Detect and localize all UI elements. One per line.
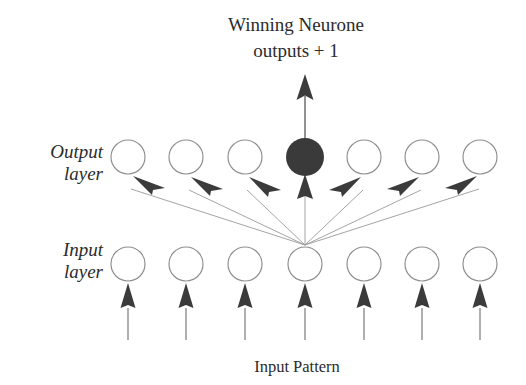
input-layer-label-line-1: Input (62, 239, 104, 260)
input-arrow-head-icon-0 (121, 283, 136, 308)
output-layer-label-line-2: layer (64, 163, 104, 184)
winner-output-arrow (297, 74, 314, 140)
output-node-3-winning-neurone[interactable] (286, 138, 324, 176)
connection-arrow-head-icon-0 (133, 176, 165, 195)
output-node-2[interactable] (228, 140, 262, 174)
input-pattern-arrows (121, 283, 488, 340)
title-line-2: outputs + 1 (253, 40, 339, 61)
output-node-5[interactable] (405, 140, 439, 174)
input-node-6[interactable] (463, 247, 497, 281)
input-layer-nodes (111, 247, 497, 281)
input-node-3[interactable] (288, 247, 322, 281)
diagram-canvas: Winning Neurone outputs + 1 (0, 0, 526, 385)
neural-network-diagram: Winning Neurone outputs + 1 (0, 0, 526, 385)
connection-line-1 (189, 190, 305, 245)
bottom-label-input-pattern: Input Pattern (254, 357, 340, 376)
output-layer-nodes (111, 138, 497, 176)
input-node-5[interactable] (405, 247, 439, 281)
connection-arrow-head-icon-2 (249, 177, 281, 197)
input-arrow-head-icon-1 (179, 283, 194, 308)
connection-arrow-head-icon-4 (329, 177, 361, 197)
input-node-1[interactable] (169, 247, 203, 281)
connection-arrow-head-icon-3 (297, 174, 313, 199)
input-arrow-head-icon-6 (473, 283, 488, 308)
input-arrow-head-icon-4 (357, 283, 372, 308)
connection-arrow-head-icon-6 (445, 176, 477, 195)
input-node-4[interactable] (347, 247, 381, 281)
output-node-0[interactable] (111, 140, 145, 174)
input-arrow-head-icon-3 (298, 283, 313, 308)
connection-line-2 (247, 190, 305, 245)
input-node-2[interactable] (228, 247, 262, 281)
connection-line-0 (131, 189, 305, 245)
input-arrow-head-icon-2 (238, 283, 253, 308)
title-line-1: Winning Neurone (228, 14, 364, 35)
output-node-4[interactable] (347, 140, 381, 174)
connection-line-6 (305, 189, 479, 245)
output-layer-label-line-1: Output (50, 141, 104, 162)
connection-line-5 (305, 190, 421, 245)
input-arrow-head-icon-5 (415, 283, 430, 308)
connection-line-4 (305, 190, 363, 245)
output-node-1[interactable] (169, 140, 203, 174)
input-node-0[interactable] (111, 247, 145, 281)
fanout-arrowheads (133, 174, 477, 199)
output-node-6[interactable] (463, 140, 497, 174)
input-layer-label-line-2: layer (64, 261, 104, 282)
